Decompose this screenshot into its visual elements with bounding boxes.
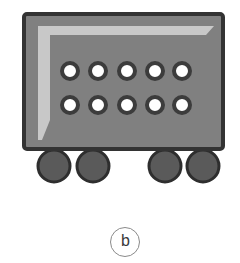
option-label: b — [121, 232, 130, 250]
rail-car-diagram — [0, 0, 240, 263]
wheel-1 — [38, 150, 70, 182]
wheel-2 — [77, 150, 109, 182]
wheel-4 — [187, 150, 219, 182]
wheel-3 — [149, 150, 181, 182]
wheels — [38, 150, 219, 182]
